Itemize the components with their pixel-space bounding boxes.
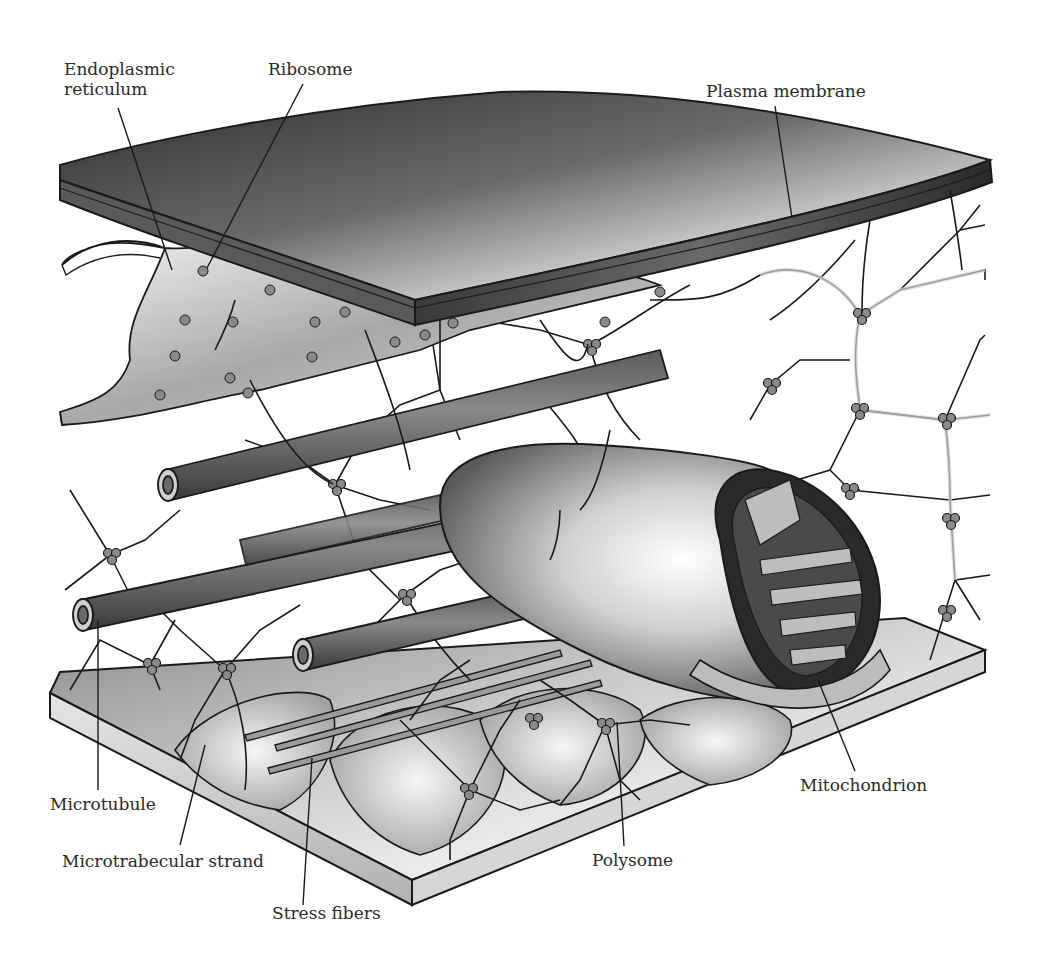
polysome-knot <box>852 404 869 420</box>
label-plasma-membrane: Plasma membrane <box>706 81 866 101</box>
polysome-knot <box>939 606 956 622</box>
label-endoplasmic-reticulum: Endoplasmic reticulum <box>64 59 175 99</box>
polysome-knot <box>584 340 601 356</box>
label-mitochondrion: Mitochondrion <box>800 775 927 795</box>
polysome-knot <box>329 480 346 496</box>
polysome-knot <box>842 484 859 500</box>
polysome-knot <box>104 549 121 565</box>
cytoskeleton-diagram <box>0 0 1042 970</box>
polysome-knot <box>939 414 956 430</box>
label-polysome: Polysome <box>592 850 673 870</box>
label-ribosome: Ribosome <box>268 59 353 79</box>
label-microtrabecular-strand: Microtrabecular strand <box>62 851 264 871</box>
polysome-knot <box>943 514 960 530</box>
label-microtubule: Microtubule <box>50 794 156 814</box>
polysome-knot <box>399 590 416 606</box>
label-stress-fibers: Stress fibers <box>272 903 381 923</box>
